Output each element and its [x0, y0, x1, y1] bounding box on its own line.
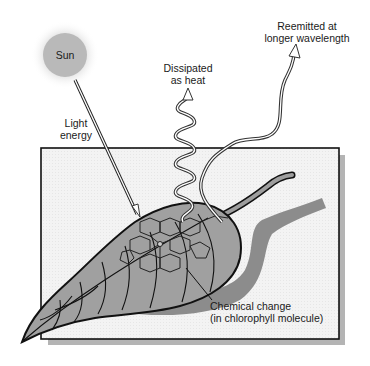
- sun-label: Sun: [49, 49, 81, 61]
- light-energy-label: Light energy: [56, 117, 96, 141]
- sun-label-text: Sun: [56, 49, 75, 61]
- photosynthesis-diagram: Sun Light energy Dissipated as heat Reem…: [0, 0, 370, 366]
- chemical-change-label: Chemical change (in chlorophyll molecule…: [210, 300, 323, 324]
- heat-arrow-icon: [183, 88, 193, 100]
- reemitted-line1: Reemitted at: [262, 20, 352, 32]
- dissipated-heat-label: Dissipated as heat: [158, 62, 218, 86]
- reemitted-label: Reemitted at longer wavelength: [262, 20, 352, 44]
- reemitted-arrow-icon: [289, 44, 300, 58]
- chemical-line1: Chemical change: [210, 300, 323, 312]
- light-energy-line2: energy: [56, 129, 96, 141]
- dissipated-line1: Dissipated: [158, 62, 218, 74]
- reemitted-line2: longer wavelength: [262, 32, 352, 44]
- chemical-line2: (in chlorophyll molecule): [210, 312, 323, 324]
- dissipated-line2: as heat: [158, 74, 218, 86]
- light-energy-line1: Light: [56, 117, 96, 129]
